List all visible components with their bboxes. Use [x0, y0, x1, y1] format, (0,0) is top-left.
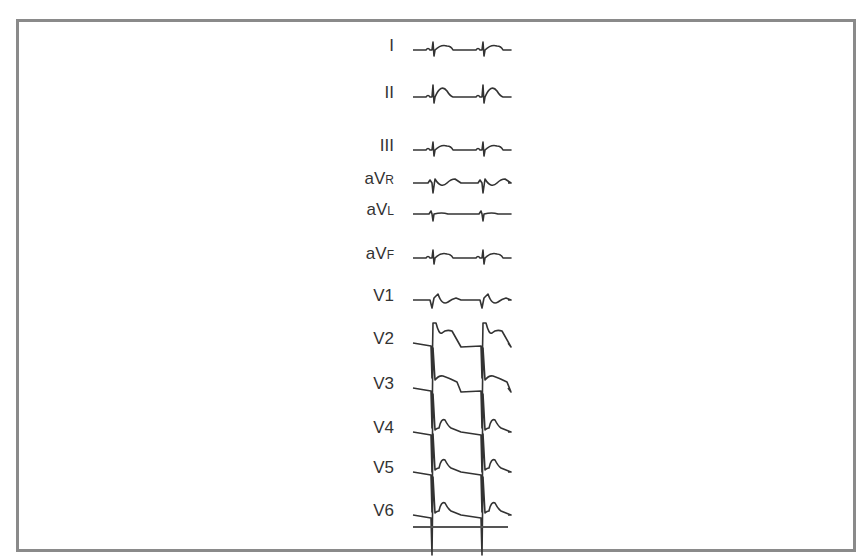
ecg-traces	[0, 0, 868, 559]
ecg-trace-v2	[413, 323, 511, 378]
ecg-trace-v1	[413, 294, 511, 308]
ecg-trace-avr	[413, 179, 511, 193]
ecg-trace-v5	[413, 434, 511, 512]
ecg-trace-ii	[413, 85, 511, 103]
ecg-trace-avf	[413, 250, 511, 264]
ecg-trace-i	[413, 42, 511, 56]
ecg-trace-v6	[413, 477, 511, 555]
ecg-trace-v4	[413, 394, 511, 472]
ecg-trace-iii	[413, 142, 511, 156]
ecg-trace-avl	[413, 211, 511, 221]
ecg-trace-v3	[413, 348, 511, 428]
